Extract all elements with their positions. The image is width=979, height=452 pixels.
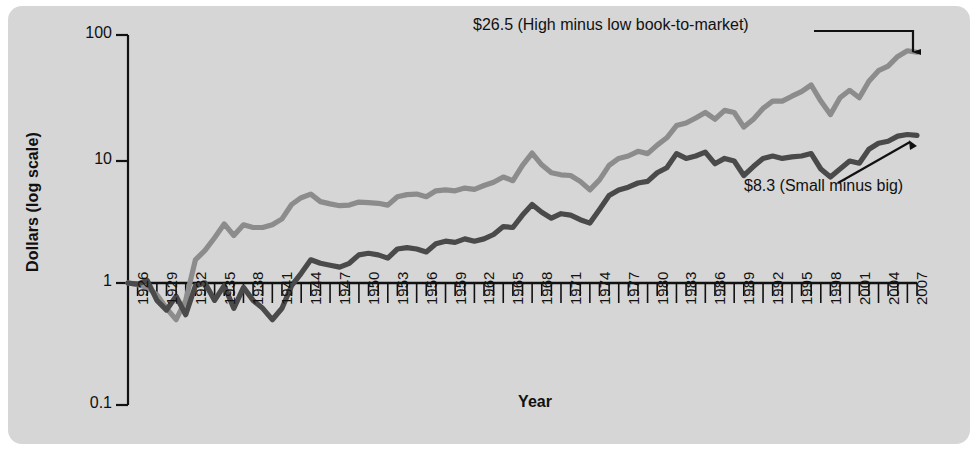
y-axis-tick-label-1: 1 [42,272,112,290]
x-axis-tick-label-1971: 1971 [567,272,584,305]
chart-screenshot: 100 10 1 0.1 192619291932193519381941194… [0,0,979,452]
x-axis-tick-label-1947: 1947 [336,272,353,305]
x-axis-tick-label-1944: 1944 [307,272,324,305]
x-axis-title: Year [440,393,630,411]
x-axis-tick-label-1956: 1956 [423,272,440,305]
x-axis-tick-label-1965: 1965 [509,272,526,305]
x-axis-tick-label-1941: 1941 [278,272,295,305]
x-axis-tick-label-1926: 1926 [134,272,151,305]
x-axis-tick-label-1929: 1929 [163,272,180,305]
x-axis-tick-label-1977: 1977 [625,272,642,305]
x-axis-tick-label-1932: 1932 [192,272,209,305]
x-axis-tick-label-1968: 1968 [538,272,555,305]
x-axis-tick-label-1959: 1959 [452,272,469,305]
x-axis-tick-label-1950: 1950 [365,272,382,305]
x-axis-tick-label-1974: 1974 [596,272,613,305]
x-axis-tick-label-1962: 1962 [480,272,497,305]
y-axis-tick-label-100: 100 [42,24,112,42]
y-axis-tick-label-10: 10 [42,150,112,168]
x-axis-tick-label-1935: 1935 [221,272,238,305]
x-axis-tick-label-1953: 1953 [394,272,411,305]
annotation-leader-high-minus-low [814,31,913,52]
chart-plot-area [0,0,979,452]
x-axis-tick-label-1995: 1995 [798,272,815,305]
annotation-high-minus-low: $26.5 (High minus low book-to-market) [473,16,749,34]
x-axis-tick-label-1986: 1986 [711,272,728,305]
x-axis-tick-label-1998: 1998 [827,272,844,305]
annotation-small-minus-big: $8.3 (Small minus big) [744,177,903,195]
y-axis-tick-label-0.1: 0.1 [42,394,112,412]
y-axis-title: Dollars (log scale) [24,107,42,297]
x-axis-tick-label-1983: 1983 [682,272,699,305]
x-axis-tick-label-2001: 2001 [856,272,873,305]
x-axis-tick-label-1989: 1989 [740,272,757,305]
x-axis-tick-label-1992: 1992 [769,272,786,305]
x-axis-tick-label-2007: 2007 [913,272,930,305]
x-axis-tick-label-1938: 1938 [249,272,266,305]
x-axis-tick-label-1980: 1980 [654,272,671,305]
x-axis-tick-label-2004: 2004 [885,272,902,305]
